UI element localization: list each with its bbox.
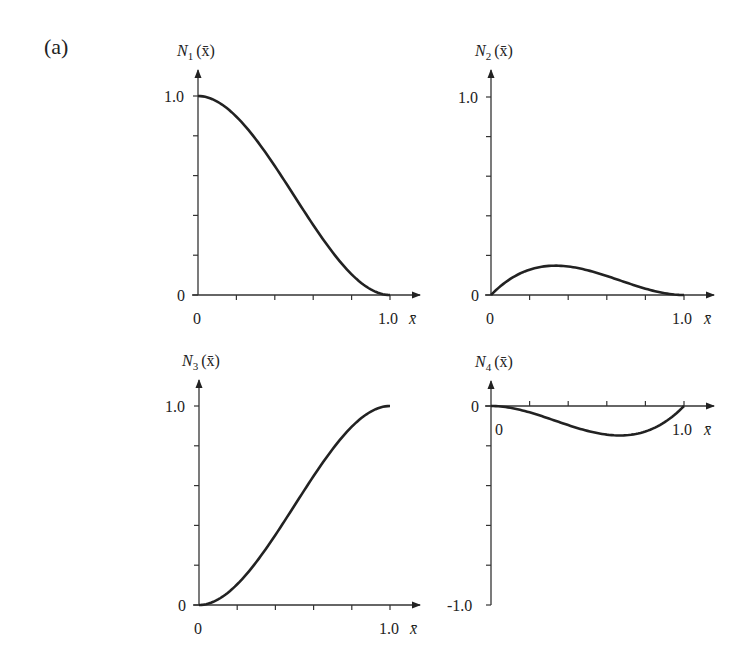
- chart-n1: N1(x̄) 1.0 0 0 1.0 x̄: [164, 42, 420, 327]
- xtick-label-n3-zero: 0: [194, 620, 202, 637]
- ytick-label-n3-zero: 0: [178, 597, 186, 614]
- xtick-label-n4-end: 1.0: [672, 421, 692, 438]
- xlabel-n3: x̄: [409, 620, 417, 637]
- ytick-label-n4-zero: 0: [471, 398, 479, 415]
- xtick-label-n1-zero: 0: [193, 310, 201, 327]
- ytick-label-n2-zero: 0: [471, 287, 479, 304]
- xtick-label-n4-zero: 0: [495, 421, 503, 438]
- chart-n2: N2(x̄) 1.0 0 0 1.0 x̄: [458, 42, 714, 327]
- curve-n1: [198, 96, 390, 295]
- ytick-label-n3-top: 1.0: [165, 398, 185, 415]
- shape-function-figure: N1(x̄) 1.0 0 0 1.0 x̄ N2(x̄) 1.0 0 0 1.0…: [0, 0, 751, 669]
- xtick-label-n2-zero: 0: [486, 310, 494, 327]
- ytick-label-n1-top: 1.0: [164, 88, 184, 105]
- xlabel-n2: x̄: [703, 310, 711, 327]
- axes-n1: [192, 70, 420, 300]
- ylabel-n3: N3(x̄): [181, 352, 220, 372]
- ylabel-n1: N1(x̄): [176, 42, 215, 62]
- xlabel-n4: x̄: [703, 421, 711, 438]
- xlabel-n1: x̄: [408, 310, 416, 327]
- curve-n2: [491, 266, 684, 295]
- ylabel-n4: N4(x̄): [474, 353, 513, 373]
- curve-n3: [199, 406, 390, 605]
- ytick-label-n4-bottom: -1.0: [447, 597, 472, 614]
- ytick-label-n1-zero: 0: [177, 287, 185, 304]
- xtick-label-n2-end: 1.0: [672, 310, 692, 327]
- axes-n2: [485, 70, 714, 300]
- xtick-label-n3-end: 1.0: [379, 620, 399, 637]
- xtick-label-n1-end: 1.0: [378, 310, 398, 327]
- axes-n4: [485, 381, 714, 605]
- ytick-label-n2-top: 1.0: [458, 89, 478, 106]
- axes-n3: [193, 380, 420, 610]
- chart-n3: N3(x̄) 1.0 0 0 1.0 x̄: [165, 352, 420, 637]
- curve-n4: [491, 406, 684, 435]
- ylabel-n2: N2(x̄): [474, 42, 513, 62]
- chart-n4: N4(x̄) 0 -1.0 0 1.0 x̄: [447, 353, 714, 614]
